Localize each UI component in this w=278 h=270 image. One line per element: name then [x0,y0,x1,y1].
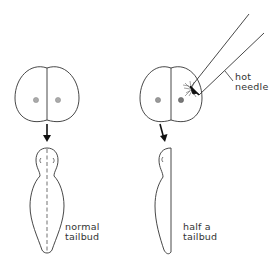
left-nucleus-1 [33,97,38,102]
left-two-cell-embryo [15,67,79,122]
hot-needle-label: hot needle [235,72,268,92]
half-tailbud-embryo [155,148,171,254]
right-nucleus-2-damaged [178,97,183,102]
normal-tailbud-embryo [30,148,64,253]
burn-mark [183,81,199,97]
right-arrow-icon [160,124,168,142]
left-arrow-icon [43,124,51,142]
hot-needle-label-line2: needle [235,82,268,92]
half-tailbud-label: half a tailbud [183,222,217,242]
normal-tailbud-label-line2: tailbud [65,232,100,242]
normal-tailbud-label: normal tailbud [65,222,100,242]
half-tailbud-label-line2: tailbud [183,232,217,242]
left-nucleus-2 [55,97,60,102]
right-nucleus-1 [155,97,160,102]
needle-label-connector [225,71,233,81]
diagram-canvas [0,0,278,270]
